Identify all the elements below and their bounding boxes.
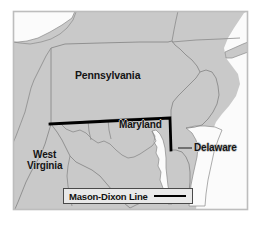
- state-label-delaware: Delaware: [194, 143, 237, 154]
- state-label-pennsylvania: Pennsylvania: [75, 70, 140, 81]
- mason-dixon-line-map: Pennsylvania Maryland Delaware West Virg…: [0, 0, 262, 227]
- map-legend: Mason-Dixon Line: [63, 188, 193, 204]
- line-sample-icon: [154, 195, 186, 197]
- state-label-west-virginia: West Virginia: [27, 150, 62, 172]
- state-label-maryland: Maryland: [119, 120, 162, 131]
- map-body: [13, 11, 248, 210]
- state-label-west-virginia-line2: Virginia: [27, 161, 62, 172]
- legend-label-mason-dixon-line: Mason-Dixon Line: [69, 191, 148, 202]
